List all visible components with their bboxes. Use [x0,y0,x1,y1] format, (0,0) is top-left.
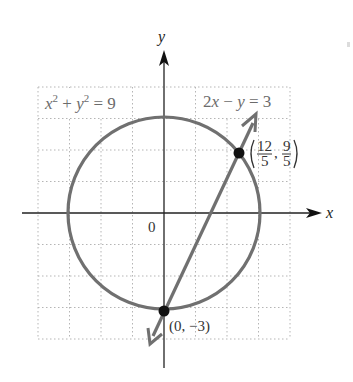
x-axis-label: x [325,204,333,221]
x-denominator: 5 [261,153,269,169]
x-numerator: 12 [257,138,272,154]
figure: y x 0 x2 + y2 = 9 2x − y = 3 12 5 , 9 5 … [0,0,353,382]
intersection-point-upper [234,148,245,159]
origin-label: 0 [148,219,156,235]
scan-artifact [347,42,350,47]
y-numerator: 9 [283,138,291,154]
line-equation-label: 2x − y = 3 [203,92,271,111]
lower-point-label: (0, −3) [169,318,210,335]
y-denominator: 5 [283,153,291,169]
intersection-point-lower [159,306,170,317]
upper-point-label: 12 5 , 9 5 [251,138,297,169]
coordinate-plane: y x 0 x2 + y2 = 9 2x − y = 3 12 5 , 9 5 … [0,0,353,382]
comma: , [274,145,278,161]
y-axis-label: y [156,28,166,46]
